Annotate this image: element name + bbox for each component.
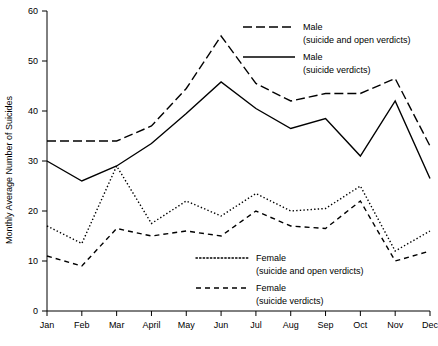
- x-tick-label: Jun: [214, 320, 229, 330]
- legend-label-secondary-0: (suicide and open verdicts): [303, 35, 411, 45]
- legend-label-secondary-3: (suicide verdicts): [256, 296, 324, 306]
- x-tick-label: Oct: [353, 320, 368, 330]
- y-tick-label: 0: [33, 306, 38, 316]
- series-line-3: [47, 201, 430, 266]
- x-axis-ticks: JanFebMarAprilMayJunJulAugSepOctNovDec: [40, 311, 438, 330]
- series-line-0: [47, 36, 430, 146]
- legend-label-primary-0: Male: [303, 22, 323, 32]
- chart-legend: Male(suicide and open verdicts)Male(suic…: [196, 22, 411, 306]
- data-series-group: [47, 36, 430, 266]
- y-tick-label: 10: [28, 256, 38, 266]
- line-chart: 0102030405060 Monthly Average Number of …: [0, 0, 438, 346]
- x-tick-label: Jan: [40, 320, 55, 330]
- y-tick-label: 40: [28, 106, 38, 116]
- x-tick-label: Mar: [109, 320, 125, 330]
- series-line-1: [47, 82, 430, 181]
- y-tick-label: 30: [28, 156, 38, 166]
- y-tick-label: 20: [28, 206, 38, 216]
- series-line-2: [47, 166, 430, 251]
- x-tick-label: Dec: [422, 320, 438, 330]
- x-tick-label: May: [178, 320, 196, 330]
- legend-label-primary-1: Male: [303, 52, 323, 62]
- x-tick-label: Jul: [250, 320, 262, 330]
- x-axis-group: JanFebMarAprilMayJunJulAugSepOctNovDec: [40, 311, 438, 330]
- x-tick-label: Feb: [74, 320, 90, 330]
- legend-label-secondary-2: (suicide and open verdicts): [256, 266, 364, 276]
- y-axis-ticks: 0102030405060: [28, 6, 47, 316]
- x-tick-label: Sep: [318, 320, 334, 330]
- x-tick-label: April: [142, 320, 160, 330]
- y-axis-group: 0102030405060 Monthly Average Number of …: [4, 6, 47, 316]
- legend-label-primary-2: Female: [256, 253, 286, 263]
- legend-label-secondary-1: (suicide verdicts): [303, 65, 371, 75]
- legend-label-primary-3: Female: [256, 283, 286, 293]
- x-tick-label: Aug: [283, 320, 299, 330]
- x-tick-label: Nov: [387, 320, 404, 330]
- y-axis-title: Monthly Average Number of Suicides: [4, 96, 14, 244]
- y-tick-label: 60: [28, 6, 38, 16]
- chart-container: 0102030405060 Monthly Average Number of …: [0, 0, 438, 346]
- y-tick-label: 50: [28, 56, 38, 66]
